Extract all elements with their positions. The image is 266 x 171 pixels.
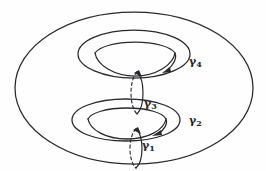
gamma1-subscript: 1	[149, 143, 155, 153]
gamma4-curve	[95, 42, 176, 70]
gamma2-curve	[88, 108, 167, 134]
gamma2-subscript: 2	[196, 118, 202, 128]
gamma4-subscript: 4	[196, 59, 202, 69]
gamma3-subscript: 3	[151, 101, 157, 111]
torus-diagram-figure: γ4 γ3 γ2 γ1	[0, 0, 266, 171]
lower-ring-inner-ellipse	[88, 119, 166, 139]
gamma1-arrowhead	[133, 127, 141, 134]
label-gamma3: γ3	[144, 98, 157, 110]
label-gamma2: γ2	[189, 115, 202, 127]
gamma1-loop-back	[130, 129, 136, 168]
torus-diagram-canvas	[0, 0, 266, 171]
label-gamma1: γ1	[142, 140, 155, 152]
label-gamma4: γ4	[189, 56, 202, 68]
